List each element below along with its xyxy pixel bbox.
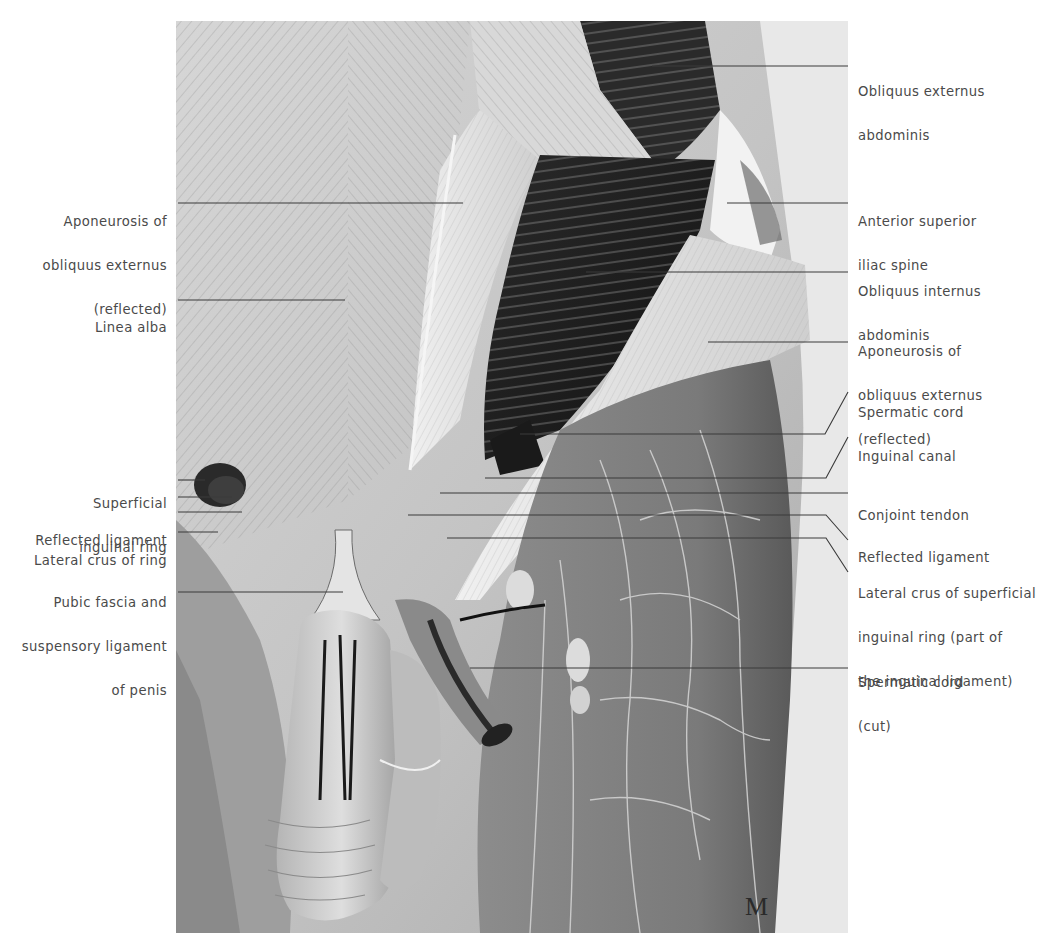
- label-line: Obliquus internus: [858, 285, 981, 300]
- label-line: Aponeurosis of: [858, 345, 982, 360]
- label-linea-alba: Linea alba: [95, 292, 167, 365]
- label-line: (cut): [858, 720, 964, 735]
- label-line: Aponeurosis of: [43, 215, 167, 230]
- label-line: Pubic fascia and: [22, 596, 167, 611]
- label-line: Inguinal canal: [858, 450, 956, 465]
- label-line: Lateral crus of superficial: [858, 587, 1036, 602]
- label-line: Linea alba: [95, 321, 167, 336]
- label-line: obliquus externus: [43, 259, 167, 274]
- anatomical-figure: M Aponeurosis of obliquus ex: [0, 0, 1058, 946]
- label-line: Obliquus externus: [858, 85, 985, 100]
- label-line: Anterior superior: [858, 215, 977, 230]
- label-line: Spermatic cord: [858, 406, 964, 421]
- label-spermatic-cord-cut: Spermatic cord (cut): [858, 647, 964, 764]
- label-pubic-fascia: Pubic fascia and suspensory ligament of …: [22, 567, 167, 728]
- label-line: suspensory ligament: [22, 640, 167, 655]
- label-line: of penis: [22, 684, 167, 699]
- label-line: abdominis: [858, 129, 985, 144]
- artist-signature: M: [745, 892, 768, 921]
- label-obliquus-externus-abdominis: Obliquus externus abdominis: [858, 56, 985, 173]
- label-line: Spermatic cord: [858, 676, 964, 691]
- label-line: inguinal ring (part of: [858, 631, 1036, 646]
